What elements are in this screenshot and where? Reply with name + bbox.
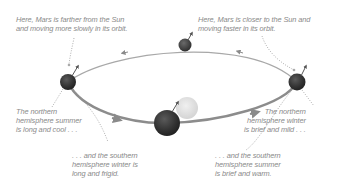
label-line: Here, Mars is farther from the Sun [16, 15, 127, 24]
label-line: The northern [244, 107, 306, 116]
mars-orbit-diagram: Here, Mars is farther from the Sun and m… [0, 0, 337, 192]
north-summer-note: The northern hemisphere summer is long a… [16, 107, 82, 134]
mars-top [179, 33, 193, 52]
sun [176, 97, 198, 119]
south-winter-note: . . . and the southern hemisphere winter… [72, 151, 138, 178]
label-line: is brief and mild . . . [244, 125, 306, 134]
label-line: The northern [16, 107, 82, 116]
leader-dot [293, 69, 296, 72]
south-summer-note: . . . and the southern hemisphere summer… [215, 151, 281, 178]
mars-left [60, 66, 78, 90]
label-line: long and frigid. [72, 169, 138, 178]
label-line: hemisphere winter is [72, 160, 138, 169]
label-line: is long and cool . . . [16, 125, 82, 134]
axis-arrow-icon [72, 66, 78, 76]
label-line: hemisphere summer [215, 160, 281, 169]
aphelion-note: Here, Mars is farther from the Sun and m… [16, 15, 127, 33]
axis-arrow-icon [188, 33, 192, 40]
label-line: hemisphere winter [244, 116, 306, 125]
leader-dot [68, 64, 71, 67]
mars-right [289, 66, 307, 91]
label-line: hemisphere summer [16, 116, 82, 125]
label-line: . . . and the southern [72, 151, 138, 160]
perihelion-note: Here, Mars is closer to the Sun and movi… [198, 15, 310, 33]
label-line: is brief and warm. [215, 169, 281, 178]
north-winter-note: The northern hemisphere winter is brief … [244, 107, 306, 134]
label-line: . . . and the southern [215, 151, 281, 160]
label-line: moving faster in its orbit. [198, 24, 310, 33]
label-line: Here, Mars is closer to the Sun and [198, 15, 310, 24]
label-line: and moving more slowly in its orbit. [16, 24, 127, 33]
axis-arrow-icon [301, 66, 306, 76]
